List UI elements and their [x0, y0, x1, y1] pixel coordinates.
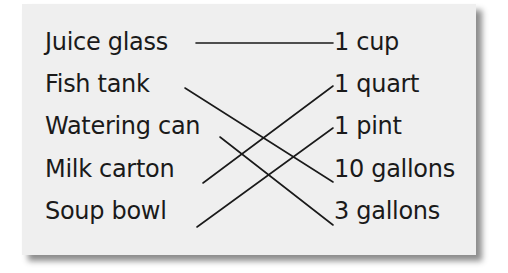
- left-item-milk-carton: Milk carton: [45, 155, 174, 183]
- right-item-3-gallons: 3 gallons: [334, 197, 440, 225]
- left-item-fish-tank: Fish tank: [45, 70, 150, 98]
- right-item-1-cup: 1 cup: [334, 28, 399, 56]
- right-item-10-gallons: 10 gallons: [334, 155, 455, 183]
- right-item-1-quart: 1 quart: [334, 70, 419, 98]
- left-item-soup-bowl: Soup bowl: [45, 197, 167, 225]
- left-item-watering-can: Watering can: [45, 112, 200, 140]
- left-item-juice-glass: Juice glass: [45, 28, 168, 56]
- right-item-1-pint: 1 pint: [334, 112, 402, 140]
